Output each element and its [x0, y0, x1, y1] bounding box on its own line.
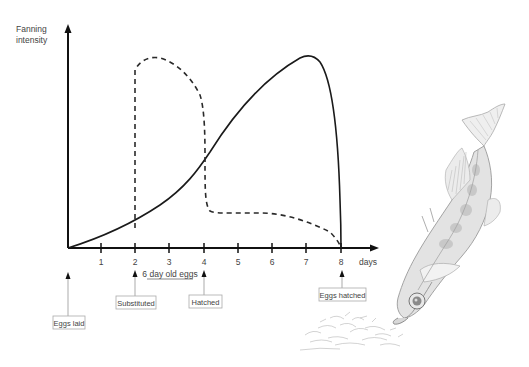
tick-label-8: 8 [339, 257, 344, 267]
stickleback-fish-illustration [393, 104, 505, 324]
up-arrow-icon [133, 270, 138, 277]
substituted-label: Substituted [117, 299, 155, 308]
up-arrow-icon [202, 270, 207, 277]
fanning-intensity-chart: Fanning intensity 1 2 3 4 5 6 7 8 days 6… [0, 0, 529, 367]
annotation-eggs-hatched: Eggs hatched [319, 270, 366, 301]
y-axis-label-line1: Fanning [16, 24, 47, 34]
tick-label-4: 4 [202, 257, 207, 267]
tick-label-7: 7 [304, 257, 309, 267]
tick-label-3: 3 [167, 257, 172, 267]
hatched-label: Hatched [192, 298, 220, 307]
eggs-hatched-label: Eggs hatched [320, 291, 366, 300]
tick-label-6: 6 [270, 257, 275, 267]
dashed-line-series [135, 58, 341, 249]
x-axis-arrow-icon [370, 245, 379, 252]
x-tick-labels: 1 2 3 4 5 6 7 8 [99, 257, 344, 267]
up-arrow-icon [66, 272, 71, 279]
eggs-laid-label: Eggs laid [54, 319, 85, 328]
up-arrow-icon [340, 270, 345, 277]
six-day-old-eggs-label: 6 day old eggs [142, 269, 197, 279]
axes [65, 24, 380, 252]
tick-label-1: 1 [99, 257, 104, 267]
y-axis-label-line2: intensity [16, 35, 48, 45]
x-axis-label: days [359, 257, 377, 267]
tick-label-2: 2 [133, 257, 138, 267]
annotation-eggs-laid: Eggs laid [53, 272, 85, 329]
tick-label-5: 5 [236, 257, 241, 267]
y-axis-arrow-icon [65, 24, 72, 33]
nest-sketch [300, 312, 403, 350]
